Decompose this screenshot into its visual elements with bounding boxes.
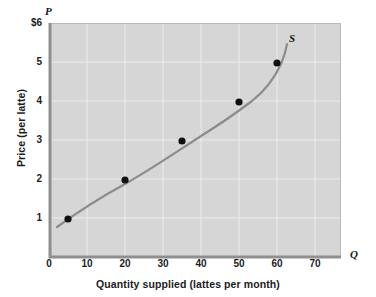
data-point — [235, 98, 242, 105]
data-point — [121, 176, 128, 183]
plot-area — [0, 0, 376, 297]
data-point — [64, 215, 71, 222]
supply-curve-chart: P Q $6 5 4 3 2 1 0 10 20 30 40 50 60 70 … — [0, 0, 376, 297]
data-point — [178, 137, 185, 144]
series-label-supply: S — [289, 32, 295, 44]
data-point — [273, 59, 280, 66]
